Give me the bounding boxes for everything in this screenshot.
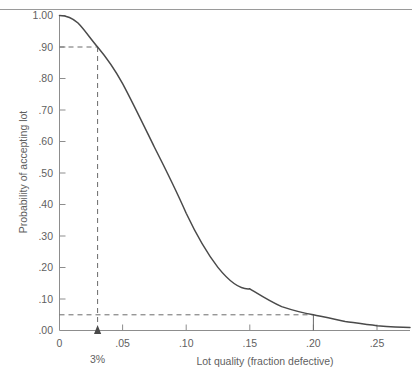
aql-guide-lines [60,47,98,326]
x-tick-label-0.10: .10 [179,337,194,349]
x-tick-label-0.05: .05 [115,337,130,349]
y-tick-label-0.50: .50 [38,167,53,179]
y-tick-label-0.40: .40 [38,198,53,210]
aql-arrow-marker [94,325,101,334]
y-tick-label-0.90: .90 [38,41,53,53]
x-tick-labels: 0 .05 .10 .15 .20 .25 [57,337,385,349]
y-tick-label-1.00: 1.00 [33,9,54,21]
x-tick-marks [123,325,377,331]
up-arrow-icon [94,325,101,334]
x-tick-label-0.25: .25 [370,337,385,349]
y-tick-label-0.60: .60 [38,135,53,147]
x-tick-label-0.20: .20 [306,337,321,349]
y-tick-label-0.70: .70 [38,104,53,116]
y-tick-label-0.80: .80 [38,72,53,84]
y-tick-label-0.20: .20 [38,261,53,273]
aql-annotation-label: 3% [90,353,105,365]
y-axis-title: Probability of accepting lot [17,111,29,234]
y-tick-labels: 1.00 .90 .80 .70 .60 .50 .40 .30 .20 .10… [33,9,54,336]
y-tick-label-0.10: .10 [38,293,53,305]
oc-curve-figure: 1.00 .90 .80 .70 .60 .50 .40 .30 .20 .10… [0,0,412,377]
x-axis-title: Lot quality (fraction defective) [196,355,333,367]
y-tick-label-0.00: .00 [38,324,53,336]
oc-curve-path [60,16,411,328]
x-tick-label-0.15: .15 [242,337,257,349]
x-tick-label-0: 0 [57,337,63,349]
y-tick-marks [60,16,66,300]
y-tick-label-0.30: .30 [38,230,53,242]
oc-curve-plot: 1.00 .90 .80 .70 .60 .50 .40 .30 .20 .10… [0,0,412,377]
